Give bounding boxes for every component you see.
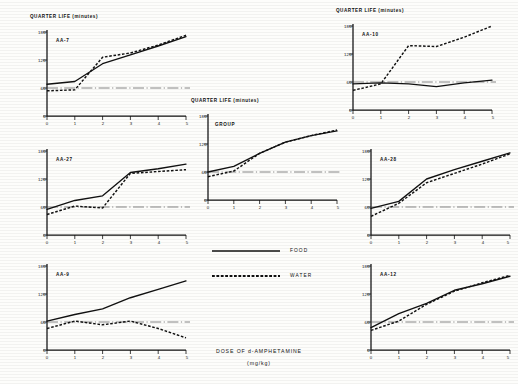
plot-area — [24, 14, 194, 122]
legend-water-label: WATER — [290, 273, 312, 278]
food-curve — [47, 37, 186, 85]
panel-aa-12: AA-12 180 120 60 0 0 1 2 3 4 5 — [348, 248, 518, 353]
panel-aa-10: QUARTER LIFE (minutes) AA-10 180 120 60 … — [330, 8, 500, 113]
food-curve — [371, 276, 510, 327]
legend-swatches — [212, 243, 342, 285]
water-curve — [208, 130, 337, 177]
food-curve — [353, 80, 492, 87]
legend: FOOD WATER — [212, 243, 342, 285]
plot-area — [24, 133, 194, 241]
water-curve — [47, 170, 186, 215]
panel-group: QUARTER LIFE (minutes) GROUP 180 120 60 … — [185, 98, 345, 203]
plot-area — [330, 8, 500, 116]
plot-area — [24, 248, 194, 356]
legend-food-label: FOOD — [290, 248, 308, 253]
plot-area — [348, 248, 518, 356]
panel-aa-27: AA-27 180 120 60 0 0 1 2 3 4 5 — [24, 133, 194, 238]
x-axis-caption-line2: (mg/kg) — [184, 360, 334, 366]
panel-aa-7: QUARTER LIFE (minutes) AA-7 180 120 60 0… — [24, 14, 194, 119]
food-curve — [47, 164, 186, 209]
plot-area — [185, 98, 345, 206]
figure-root: QUARTER LIFE (minutes) AA-7 180 120 60 0… — [0, 0, 518, 384]
x-axis-caption-line1: DOSE OF d-AMPHETAMINE — [184, 348, 334, 354]
food-curve — [208, 131, 337, 172]
water-curve — [47, 321, 186, 338]
food-curve — [47, 281, 186, 321]
panel-aa-9: AA-9 180 120 60 0 0 1 2 3 4 5 — [24, 248, 194, 353]
panel-aa-28: AA-28 180 120 60 0 0 1 2 3 4 5 — [348, 133, 518, 238]
water-curve — [353, 26, 492, 90]
plot-area — [348, 133, 518, 241]
